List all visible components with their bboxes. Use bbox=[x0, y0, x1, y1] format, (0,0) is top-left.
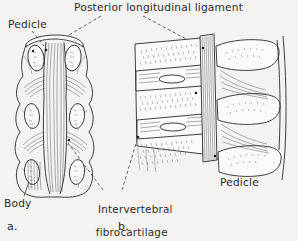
caption-a: a. bbox=[7, 221, 18, 233]
marker-dot-a-2 bbox=[32, 50, 34, 52]
column-right-outer-contour-b bbox=[282, 36, 286, 180]
label-ivf-line1: Intervertebral bbox=[98, 203, 173, 215]
anatomical-figure: Posterior longitudinal ligament Pedicle … bbox=[0, 0, 298, 241]
pedicle-oval-left-2 bbox=[23, 103, 41, 129]
pedicle-oval-right-2 bbox=[68, 103, 86, 129]
label-intervertebral-fibrocartilage: Intervertebral fibrocartilage bbox=[84, 192, 173, 241]
marker-dot-b-2 bbox=[195, 92, 198, 95]
label-pedicle-right: Pedicle bbox=[220, 177, 259, 189]
panel-a-drawing bbox=[15, 35, 94, 197]
label-body: Body bbox=[4, 198, 32, 210]
marker-dot-a-3 bbox=[68, 139, 70, 141]
marker-dot-b-3 bbox=[137, 136, 140, 139]
panel-b-drawing bbox=[135, 34, 286, 180]
lateral-vertebra-1 bbox=[216, 40, 279, 71]
marker-dot-a-1 bbox=[45, 49, 48, 52]
caption-b: b. bbox=[118, 221, 129, 233]
label-posterior-longitudinal-ligament: Posterior longitudinal ligament bbox=[74, 2, 243, 14]
pedicle-oval-left-1 bbox=[26, 44, 45, 72]
leader-ivf-to-b bbox=[122, 137, 138, 190]
pedicle-oval-left-3 bbox=[23, 159, 41, 185]
lateral-vertebra-2 bbox=[217, 94, 280, 125]
lateral-vertebra-3 bbox=[218, 146, 281, 177]
pedicle-cross-sections-a bbox=[23, 44, 86, 185]
leader-title-to-a bbox=[69, 16, 101, 35]
label-pedicle-left: Pedicle bbox=[8, 19, 47, 31]
marker-dot-b-4 bbox=[214, 155, 217, 158]
lower-body-fibers-b bbox=[138, 148, 156, 172]
ligament-striations-a bbox=[47, 43, 64, 192]
marker-dot-b-1 bbox=[202, 47, 205, 50]
pedicle-oval-right-3 bbox=[68, 159, 86, 185]
